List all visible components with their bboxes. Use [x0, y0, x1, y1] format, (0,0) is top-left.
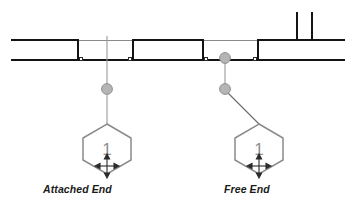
attached-end-tag[interactable]: 1 — [83, 124, 131, 178]
free-leader-grip[interactable] — [220, 84, 231, 95]
wall-grip-square-2[interactable] — [128, 57, 131, 60]
attached-leader-grip[interactable] — [102, 84, 113, 95]
floor-plan-svg: 1 1 — [0, 0, 356, 207]
free-end-tag[interactable]: 1 — [235, 124, 283, 178]
move-arrow-head-down — [256, 173, 261, 178]
wall-grip-square-1[interactable] — [80, 57, 83, 60]
diagram-canvas: 1 1 Attached E — [0, 0, 356, 207]
free-leader-line-lower[interactable] — [228, 93, 259, 124]
attached-end-leader[interactable] — [102, 36, 113, 124]
wall-grip-square-4[interactable] — [253, 57, 256, 60]
label-attached-end: Attached End — [43, 183, 112, 195]
move-arrow-head-down — [104, 173, 109, 178]
wall-grip-square-3[interactable] — [204, 57, 207, 60]
wall-heavy-lines — [11, 40, 345, 60]
wall-thin-faces — [78, 40, 258, 60]
wall-run — [11, 12, 345, 61]
free-wall-grip[interactable] — [220, 53, 231, 64]
wall-joints — [78, 39, 258, 61]
free-end-leader[interactable] — [220, 53, 259, 124]
attached-end-move-arrow-icon[interactable] — [95, 154, 119, 178]
free-end-move-arrow-icon[interactable] — [247, 154, 271, 178]
label-free-end: Free End — [224, 183, 270, 195]
wall-stubs — [297, 12, 345, 41]
